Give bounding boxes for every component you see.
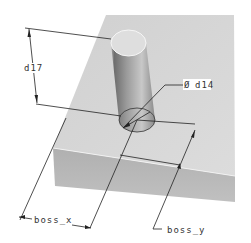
dimension-label-boss-x: boss_x [34,215,73,225]
dimension-label-d17: d17 [24,63,43,73]
dimension-label-boss-y: boss_y [167,225,206,235]
cad-diagram: d17 Ø d14 boss_x boss_y [0,0,251,243]
dimension-label-diameter-symbol: Ø [184,80,190,90]
cylinder-top-face [111,30,146,56]
dimension-label-d14: d14 [195,80,214,90]
